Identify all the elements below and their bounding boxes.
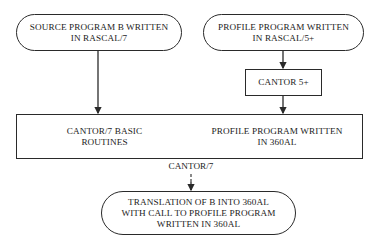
cantor7-basic-line1: CANTOR/7 BASIC <box>67 126 143 137</box>
cantor7-basic-line2: ROUTINES <box>67 137 143 148</box>
profile-rascal-line1: PROFILE PROGRAM WRITTEN <box>218 22 349 33</box>
profile-360al-line2: IN 360AL <box>212 137 343 148</box>
translation-line1: TRANSLATION OF B INTO 360AL <box>121 197 275 208</box>
profile-program-360al-node: PROFILE PROGRAM WRITTEN IN 360AL <box>192 115 362 158</box>
cantor7-edge-label: CANTOR/7 <box>150 161 232 172</box>
source-program-line1: SOURCE PROGRAM B WRITTEN <box>30 22 168 33</box>
translation-line2: WITH CALL TO PROFILE PROGRAM <box>121 208 275 219</box>
cantor7-basic-node: CANTOR/7 BASIC ROUTINES <box>17 115 192 158</box>
source-program-node: SOURCE PROGRAM B WRITTEN IN RASCAL/7 <box>16 14 182 51</box>
combined-process-box: CANTOR/7 BASIC ROUTINES PROFILE PROGRAM … <box>16 114 363 159</box>
profile-program-rascal-node: PROFILE PROGRAM WRITTEN IN RASCAL/5+ <box>203 14 364 51</box>
translation-line3: WRITTEN IN 360AL <box>121 219 275 230</box>
profile-360al-line1: PROFILE PROGRAM WRITTEN <box>212 126 343 137</box>
translation-node: TRANSLATION OF B INTO 360AL WITH CALL TO… <box>101 191 296 235</box>
cantor5-node: CANTOR 5+ <box>245 69 322 96</box>
profile-rascal-line2: IN RASCAL/5+ <box>218 33 349 44</box>
cantor5-label: CANTOR 5+ <box>258 77 309 88</box>
source-program-line2: IN RASCAL/7 <box>30 33 168 44</box>
